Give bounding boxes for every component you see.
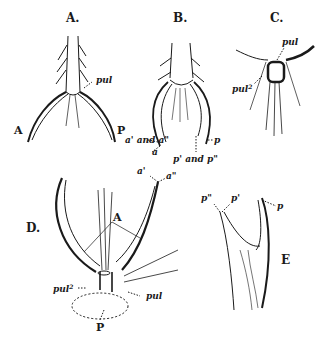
panel-d-label-a2: a" bbox=[166, 172, 177, 181]
panel-d-label-a1: a' bbox=[137, 167, 146, 176]
panel-d-label-claws: A bbox=[113, 212, 122, 223]
panel-e-drawing bbox=[214, 198, 276, 310]
figure-drawing bbox=[0, 0, 325, 342]
panel-b-label-p-pair: p' and p" bbox=[173, 155, 218, 164]
panel-d-label-pul: pul bbox=[146, 292, 162, 301]
panel-d-title: D. bbox=[26, 222, 40, 234]
panel-c-label-pul2: pul2 bbox=[232, 84, 252, 94]
panel-a-label-pul: pul bbox=[96, 76, 112, 85]
panel-a-label-anterior: A bbox=[14, 125, 23, 136]
panel-e-label-p: p bbox=[277, 202, 283, 211]
panel-e-label-p1: p' bbox=[231, 194, 240, 203]
panel-b-label-a: a bbox=[152, 148, 158, 157]
panel-e-title: E bbox=[281, 254, 290, 266]
panel-a-drawing bbox=[28, 36, 115, 142]
panel-b-label-p: p bbox=[214, 136, 220, 145]
panel-a-title: A. bbox=[66, 12, 80, 24]
panel-b-label-a-pair: a' and a" bbox=[125, 136, 169, 145]
panel-d-label-pul2: pul2 bbox=[53, 284, 73, 294]
panel-d-label-p: P bbox=[96, 322, 104, 333]
panel-c-title: C. bbox=[270, 12, 284, 24]
panel-b-title: B. bbox=[173, 12, 187, 24]
panel-e-label-p2: p" bbox=[201, 194, 212, 203]
panel-c-label-pul: pul bbox=[282, 38, 298, 47]
